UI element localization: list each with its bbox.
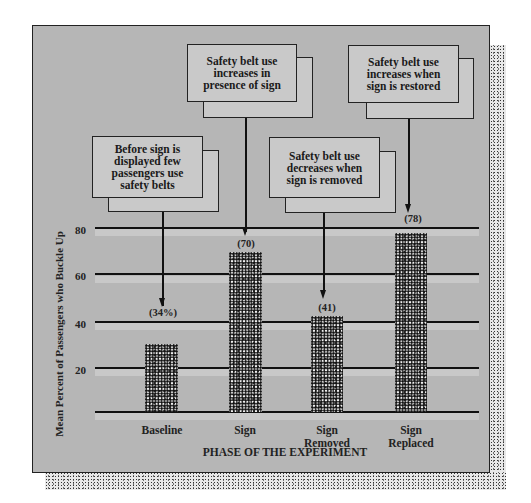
arrow-down-icon: [242, 227, 248, 236]
value-label-sign-replaced: (78): [383, 213, 443, 224]
grid-band-0: [95, 413, 479, 420]
panel-shadow-right: [490, 45, 506, 490]
y-tick-40: 40: [62, 318, 86, 330]
bar-baseline: [145, 344, 178, 412]
value-label-sign: (70): [216, 238, 276, 249]
arrow-down-icon: [320, 290, 326, 299]
gridline-80: [95, 227, 479, 229]
bar-sign: [229, 252, 262, 412]
bar-sign-replaced: [395, 233, 427, 412]
value-label-sign-removed: (41): [297, 302, 357, 313]
panel-shadow-bottom: [45, 472, 506, 490]
connector-sign-replaced: [408, 117, 410, 207]
y-tick-80: 80: [62, 224, 86, 236]
bar-sign-removed: [311, 316, 343, 412]
y-tick-20: 20: [62, 364, 86, 376]
arrow-down-icon: [159, 298, 165, 307]
connector-sign-removed: [323, 211, 325, 291]
y-axis-label: Mean Percent of Passengers who Buckle Up: [53, 219, 65, 449]
connector-baseline: [162, 210, 164, 306]
x-axis-title: PHASE OF THE EXPERIMENT: [160, 446, 410, 458]
connector-sign: [245, 117, 247, 232]
value-label-baseline: (34%): [133, 307, 193, 318]
x-label-baseline: Baseline: [122, 424, 202, 437]
arrow-down-icon: [405, 204, 411, 213]
x-label-sign: Sign: [205, 424, 285, 437]
y-tick-60: 60: [62, 270, 86, 282]
